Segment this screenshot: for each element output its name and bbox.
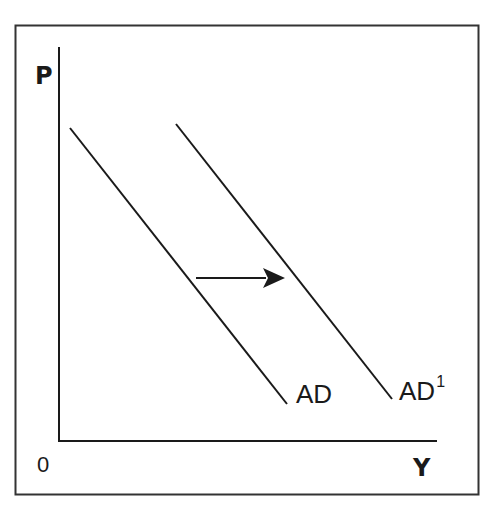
- ad1-label-base: AD: [399, 376, 435, 406]
- shift-right-arrow-icon: [196, 268, 285, 288]
- ad1-curve: [176, 124, 392, 399]
- origin-label: 0: [37, 452, 49, 477]
- ad-curve-label: AD: [296, 379, 332, 409]
- y-axis-label: P: [35, 62, 53, 90]
- ad-curve: [70, 128, 287, 404]
- ad1-label-superscript: 1: [436, 373, 445, 390]
- ad1-curve-label: AD1: [399, 373, 445, 406]
- outer-frame: [16, 26, 479, 495]
- ad-shift-diagram: P 0 Y AD AD1: [0, 0, 492, 514]
- x-axis-label: Y: [412, 454, 431, 482]
